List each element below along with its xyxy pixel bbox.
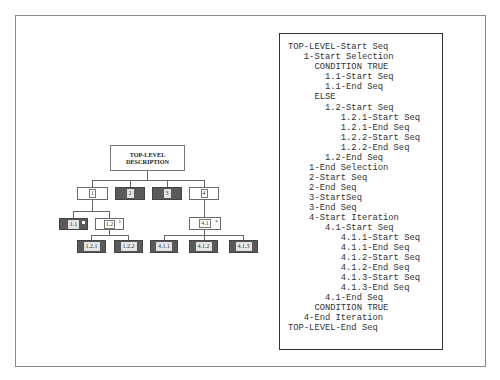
connector (204, 200, 205, 217)
connector (92, 180, 93, 187)
code-line: CONDITION TRUE (288, 303, 388, 313)
code-line: 4.1.1-Start Seq (288, 233, 420, 243)
node-4-1-1: 4.1.1 (150, 240, 178, 253)
connector (91, 235, 129, 236)
node-label: 4 (201, 189, 208, 198)
code-line: 1.1-End Seq (288, 82, 383, 92)
code-line: 1.2.1-End Seq (288, 123, 409, 133)
connector (109, 211, 110, 218)
connector (147, 171, 148, 180)
code-line: 3-End Seq (288, 203, 357, 213)
code-line: 4.1.3-End Seq (288, 283, 409, 293)
code-line: 1.2-Start Seq (288, 103, 394, 113)
node-1-2-1: 1.2.1 (77, 240, 106, 253)
root-node: TOP-LEVEL DESCRIPTION (110, 145, 185, 171)
node-label: 1.2 (104, 220, 116, 229)
node-3: 3 (152, 187, 182, 200)
iteration-marker-icon: * (215, 219, 218, 225)
code-line: 4.1.3-Start Seq (288, 273, 420, 283)
code-line: 1-Start Selection (288, 52, 394, 62)
root-label-line2: DESCRIPTION (126, 158, 169, 166)
connector (167, 180, 168, 187)
node-label: 4.1 (199, 219, 211, 228)
code-line: 1-End Selection (288, 163, 388, 173)
connector (130, 180, 131, 187)
code-line: TOP-LEVEL-End Seq (288, 323, 378, 333)
node-label: 4.1.2 (196, 242, 212, 251)
code-line: 2-Start Seq (288, 173, 367, 183)
code-line: 3-StartSeq (288, 193, 362, 203)
pseudocode-panel: TOP-LEVEL-Start Seq 1-Start Selection CO… (279, 33, 443, 350)
code-line: 4.1.2-End Seq (288, 263, 409, 273)
connector (73, 211, 110, 212)
code-line: TOP-LEVEL-Start Seq (288, 42, 388, 52)
node-1-2: 1.2 ° (95, 218, 124, 230)
node-2: 2 (115, 187, 145, 200)
node-4-1-2: 4.1.2 (189, 240, 218, 253)
node-label: 2 (127, 189, 134, 198)
data-flag-icon (82, 221, 85, 224)
node-1-1: 1.1 (59, 218, 88, 230)
node-label: 1.2.1 (84, 242, 100, 251)
code-line: 1.2.2-End Seq (288, 143, 409, 153)
code-line: 4.1.2-Start Seq (288, 253, 420, 263)
node-1: 1 (77, 187, 108, 200)
node-4-1-3: 4.1.3 (229, 240, 258, 253)
code-line: 4-Start Iteration (288, 213, 399, 223)
node-4-1: 4.1 * (189, 217, 221, 230)
connector (204, 180, 205, 187)
code-line: 1.2-End Seq (288, 153, 383, 163)
code-line: 4.1.1-End Seq (288, 243, 409, 253)
code-line: CONDITION TRUE (288, 62, 388, 72)
node-label: 4.1.1 (156, 242, 172, 251)
code-line: 4-End Iteration (288, 313, 383, 323)
code-line: 1.1-Start Seq (288, 72, 394, 82)
node-label: 3 (164, 189, 171, 198)
code-line: 1.2.2-Start Seq (288, 133, 420, 143)
code-line: 4.1-Start Seq (288, 223, 394, 233)
root-label-line1: TOP-LEVEL (130, 151, 166, 159)
code-line: 1.2.1-Start Seq (288, 113, 420, 123)
node-1-2-2: 1.2.2 (114, 240, 143, 253)
node-4: 4 (189, 187, 219, 200)
node-label: 1.1 (68, 220, 80, 229)
code-line: 4.1-End Seq (288, 293, 383, 303)
code-line: ELSE (288, 92, 336, 102)
node-label: 1.2.2 (121, 242, 137, 251)
connector (73, 211, 74, 218)
connector (92, 180, 205, 181)
connector (92, 200, 93, 211)
code-line: 2-End Seq (288, 183, 357, 193)
selection-marker-icon: ° (119, 220, 121, 226)
node-label: 4.1.3 (236, 242, 252, 251)
node-label: 1 (89, 189, 96, 198)
